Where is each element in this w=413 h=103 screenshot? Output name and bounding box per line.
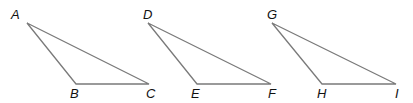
vertex-label-f: F (268, 86, 277, 101)
triangle-abc-outline (27, 23, 149, 84)
vertex-label-g: G (267, 7, 277, 22)
vertex-label-i: I (395, 86, 399, 101)
vertex-label-e: E (191, 86, 200, 101)
vertex-label-d: D (143, 7, 152, 22)
vertex-label-b: B (70, 86, 79, 101)
vertex-label-a: A (10, 7, 20, 22)
triangle-ghi-outline (272, 23, 396, 84)
triangle-ghi: G H I (267, 7, 399, 101)
vertex-label-c: C (146, 86, 156, 101)
vertex-label-h: H (317, 86, 327, 101)
triangle-def: D E F (143, 7, 277, 101)
triangles-diagram: A B C D E F G H I (0, 0, 413, 103)
triangle-abc: A B C (10, 7, 156, 101)
triangle-def-outline (148, 23, 271, 84)
